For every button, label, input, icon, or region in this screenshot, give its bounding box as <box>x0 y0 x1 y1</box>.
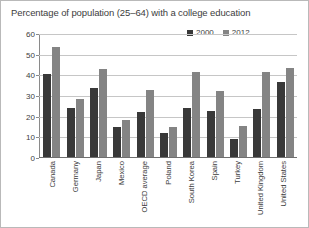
y-axis-tick-mark <box>36 137 39 138</box>
bar-2012 <box>76 99 84 157</box>
x-axis-label: Mexico <box>117 161 126 185</box>
bar-group <box>204 34 227 157</box>
x-axis-label-cell: Turkey <box>226 161 249 227</box>
x-axis-label-cell: Canada <box>40 161 63 227</box>
bar-2000 <box>230 139 238 157</box>
bar-groups <box>40 34 297 157</box>
x-axis-label-cell: Mexico <box>110 161 133 227</box>
bar-group <box>227 34 250 157</box>
y-axis-tick-mark <box>36 96 39 97</box>
bar-2000 <box>160 133 168 157</box>
y-axis-tick-mark <box>36 55 39 56</box>
x-axis-label-cell: Japan <box>86 161 109 227</box>
x-axis-label: Turkey <box>233 161 242 184</box>
y-axis-tick-label: 0 <box>31 154 35 163</box>
bar-group <box>157 34 180 157</box>
y-axis-tick-label: 50 <box>26 50 35 59</box>
bar-2000 <box>67 108 75 157</box>
bar-2012 <box>216 91 224 157</box>
y-axis-tick-label: 40 <box>26 71 35 80</box>
bar-2012 <box>99 69 107 157</box>
bar-2000 <box>207 111 215 158</box>
y-axis-tick-mark <box>36 117 39 118</box>
x-axis-label: OECD average <box>140 161 149 213</box>
x-axis-label: Japan <box>93 161 102 182</box>
x-axis-label-cell: Poland <box>156 161 179 227</box>
bar-2000 <box>113 127 121 157</box>
x-axis-label-cell: United Kingdom <box>249 161 272 227</box>
bar-2012 <box>192 72 200 157</box>
bar-2012 <box>169 127 177 157</box>
bar-group <box>180 34 203 157</box>
x-axis-label-cell: Germany <box>63 161 86 227</box>
bar-2000 <box>137 112 145 157</box>
x-axis-label-cell: OECD average <box>133 161 156 227</box>
x-axis-label-cell: United States <box>272 161 295 227</box>
bar-2000 <box>277 82 285 157</box>
plot-area: 0102030405060 <box>39 34 297 158</box>
y-axis-tick-label: 10 <box>26 133 35 142</box>
bar-group <box>110 34 133 157</box>
bar-2012 <box>146 90 154 157</box>
x-axis-label: Germany <box>70 161 79 192</box>
bar-group <box>250 34 273 157</box>
bar-2012 <box>52 47 60 157</box>
y-axis-tick-mark <box>36 34 39 35</box>
bar-group <box>87 34 110 157</box>
bar-group <box>274 34 297 157</box>
bar-2000 <box>90 88 98 157</box>
x-axis-label-cell: Spain <box>202 161 225 227</box>
x-axis <box>39 157 297 158</box>
chart-figure: Percentage of population (25–64) with a … <box>0 0 309 228</box>
bar-2000 <box>183 108 191 157</box>
chart-title: Percentage of population (25–64) with a … <box>11 7 250 18</box>
x-axis-label: United Kingdom <box>256 161 265 215</box>
bar-2012 <box>122 120 130 157</box>
bar-2012 <box>262 72 270 157</box>
y-axis-tick-mark <box>36 158 39 159</box>
x-axis-labels: CanadaGermanyJapanMexicoOECD averagePola… <box>40 161 295 227</box>
bar-group <box>63 34 86 157</box>
x-axis-label: United States <box>279 161 288 207</box>
bar-2012 <box>286 68 294 157</box>
x-axis-label-cell: South Korea <box>179 161 202 227</box>
x-axis-label: Spain <box>209 161 218 180</box>
bar-group <box>40 34 63 157</box>
y-axis-tick-label: 20 <box>26 112 35 121</box>
x-axis-label: South Korea <box>186 161 195 203</box>
y-axis-tick-mark <box>36 75 39 76</box>
x-axis-label: Poland <box>163 161 172 185</box>
x-axis-label: Canada <box>47 161 56 188</box>
y-axis-tick-label: 60 <box>26 30 35 39</box>
bar-2012 <box>239 126 247 157</box>
bar-2000 <box>253 109 261 157</box>
bar-2000 <box>43 74 51 157</box>
bar-group <box>133 34 156 157</box>
y-axis-tick-label: 30 <box>26 92 35 101</box>
